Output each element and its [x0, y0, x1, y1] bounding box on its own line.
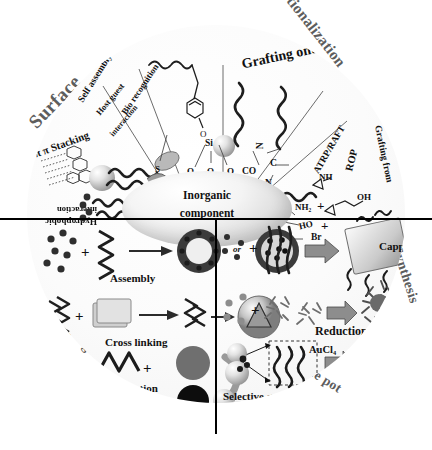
vertical-divider [215, 219, 217, 434]
figure-caption [0, 436, 432, 450]
scheme-figure: Surface Functionalization Synthesis One … [0, 0, 432, 450]
label-selective-growth: Selective growth [223, 391, 300, 402]
label-aucl4: AuCl₄ [309, 345, 336, 356]
